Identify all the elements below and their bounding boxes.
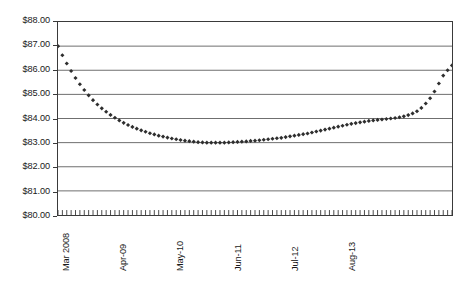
data-point-marker <box>305 131 309 135</box>
data-point-marker <box>292 134 296 138</box>
chart-container: $88.00$87.00$86.00$85.00$84.00$83.00$82.… <box>0 0 465 285</box>
x-axis-tick-label: Aug-13 <box>347 242 357 271</box>
data-point-marker <box>209 141 213 145</box>
data-point-marker <box>279 136 283 140</box>
data-point-marker <box>58 44 60 48</box>
data-point-marker <box>257 138 261 142</box>
data-point-marker <box>157 134 161 138</box>
data-point-marker <box>319 128 323 132</box>
data-point-marker <box>415 109 419 113</box>
data-point-marker <box>135 127 139 131</box>
data-point-marker <box>143 130 147 134</box>
data-point-marker <box>345 123 349 127</box>
data-point-marker <box>205 141 209 145</box>
y-axis-tick-label: $84.00 <box>0 113 50 123</box>
data-point-marker <box>270 137 274 141</box>
y-axis-tick-mark <box>53 167 57 168</box>
data-point-marker <box>266 137 270 141</box>
data-point-marker <box>310 130 314 134</box>
data-point-marker <box>327 127 331 131</box>
y-axis-tick-label: $87.00 <box>0 39 50 49</box>
data-point-marker <box>113 116 117 120</box>
data-point-marker <box>152 132 156 136</box>
y-axis-tick-mark <box>53 21 57 22</box>
x-axis-tick-label: Mar 2008 <box>61 233 71 271</box>
data-point-marker <box>284 135 288 139</box>
y-axis-tick-label: $81.00 <box>0 186 50 196</box>
y-axis-tick-mark <box>53 45 57 46</box>
data-point-marker <box>231 140 235 144</box>
data-point-marker <box>411 111 415 115</box>
data-point-marker <box>262 138 266 142</box>
data-point-marker <box>402 114 406 118</box>
y-axis-tick-mark <box>53 192 57 193</box>
data-point-marker <box>227 140 231 144</box>
data-point-marker <box>108 113 112 117</box>
data-point-marker <box>336 125 340 129</box>
data-point-marker <box>60 53 64 57</box>
y-axis-tick-mark <box>53 143 57 144</box>
y-axis-tick-label: $83.00 <box>0 137 50 147</box>
data-point-marker <box>78 82 82 86</box>
data-point-marker <box>165 135 169 139</box>
gridlines <box>58 46 452 191</box>
x-axis-tick-label: Jul-12 <box>290 247 300 271</box>
y-axis-tick-label: $80.00 <box>0 210 50 220</box>
data-point-marker <box>148 131 152 135</box>
data-point-marker <box>314 129 318 133</box>
data-point-marker <box>73 76 77 80</box>
y-axis-tick-label: $88.00 <box>0 15 50 25</box>
data-point-marker <box>82 88 86 92</box>
data-point-marker <box>349 122 353 126</box>
data-point-marker <box>222 141 226 145</box>
data-point-marker <box>275 136 279 140</box>
data-point-marker <box>174 137 178 141</box>
data-point-marker <box>297 133 301 137</box>
x-axis-tick-label: May-10 <box>175 241 185 271</box>
data-point-marker <box>214 141 218 145</box>
data-point-marker <box>332 126 336 130</box>
data-point-marker <box>432 89 436 93</box>
data-point-marker <box>95 102 99 106</box>
y-axis-tick-label: $86.00 <box>0 64 50 74</box>
data-point-marker <box>104 110 108 114</box>
data-point-marker <box>362 120 366 124</box>
data-point-marker <box>424 101 428 105</box>
data-point-marker <box>384 117 388 121</box>
y-axis-tick-mark <box>53 216 57 217</box>
data-point-marker <box>161 135 165 139</box>
data-point-marker <box>419 106 423 110</box>
plot-area <box>57 21 453 216</box>
data-point-marker <box>393 116 397 120</box>
data-point-marker <box>200 140 204 144</box>
y-axis-tick-mark <box>53 70 57 71</box>
y-axis-tick-mark <box>53 119 57 120</box>
x-axis-tick-label: Apr-09 <box>118 244 128 271</box>
y-axis-tick-mark <box>53 94 57 95</box>
y-axis-tick-label: $85.00 <box>0 88 50 98</box>
data-point-marker <box>139 128 143 132</box>
data-point-marker <box>446 68 450 72</box>
data-point-marker <box>354 121 358 125</box>
data-point-marker <box>130 125 134 129</box>
data-point-marker <box>406 113 410 117</box>
data-point-marker <box>218 141 222 145</box>
data-point-marker <box>340 124 344 128</box>
data-point-marker <box>65 61 69 65</box>
data-point-marker <box>235 140 239 144</box>
data-point-marker <box>301 132 305 136</box>
data-point-marker <box>428 96 432 100</box>
data-point-marker <box>126 123 130 127</box>
data-point-marker <box>358 120 362 124</box>
data-point-marker <box>91 98 95 102</box>
data-point-marker <box>367 119 371 123</box>
data-point-marker <box>69 69 73 73</box>
data-point-marker <box>178 138 182 142</box>
y-axis-tick-label: $82.00 <box>0 161 50 171</box>
data-point-marker <box>437 81 441 85</box>
data-point-marker <box>323 128 327 132</box>
data-point-marker <box>288 134 292 138</box>
data-point-marker <box>170 136 174 140</box>
x-axis-tick-label: Jun-11 <box>233 244 243 271</box>
plot-svg <box>58 22 452 215</box>
